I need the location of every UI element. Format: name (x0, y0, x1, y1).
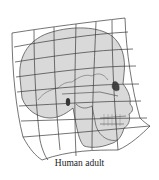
figure-caption: Human adult (0, 158, 159, 168)
skull-diagram (0, 0, 159, 180)
